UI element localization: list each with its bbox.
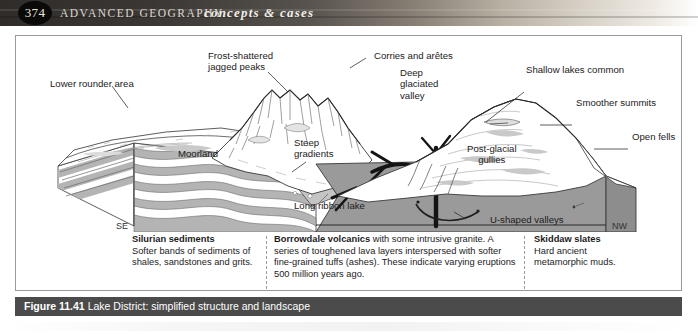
label-long-ribbon-lake: Long ribbon lake <box>294 200 365 211</box>
running-header-band: 374 ADVANCED GEOGRAPHY concepts & cases <box>0 0 698 26</box>
label-shallow-lakes-common: Shallow lakes common <box>526 64 624 75</box>
figure-caption-text: Figure 11.41 Lake District: simplified s… <box>24 297 310 316</box>
label-smoother-summits: Smoother summits <box>576 97 656 108</box>
caption-divider-right <box>524 236 525 289</box>
figure-frame: Lower rounder area Frost-shattered jagge… <box>15 35 682 291</box>
label-lower-rounder-area: Lower rounder area <box>50 78 134 89</box>
page-number: 374 <box>18 1 52 25</box>
page-bottom-scuff <box>0 322 698 331</box>
compass-label-se: SE <box>116 221 128 231</box>
label-steep-gradients: Steep gradients <box>294 137 333 160</box>
geology-title-silurian: Silurian sediments <box>132 234 215 244</box>
series-title: concepts & cases <box>204 0 314 26</box>
geology-title-skiddaw: Skiddaw slates <box>534 234 601 244</box>
label-post-glacial-gullies: Post-glacial gullies <box>467 143 517 166</box>
geology-column-skiddaw-slates: Skiddaw slates Hard ancient metamorphic … <box>534 234 630 269</box>
label-frost-shattered-jagged-peaks: Frost-shattered jagged peaks <box>208 50 273 73</box>
figure-caption-bar: Figure 11.41 Lake District: simplified s… <box>15 297 682 316</box>
geology-body-skiddaw: Hard ancient metamorphic muds. <box>534 246 616 268</box>
label-moorland: Moorland <box>178 148 218 159</box>
geology-title-borrowdale: Borrowdale volcanics <box>274 234 370 244</box>
label-deep-glaciated-valley: Deep glaciated valley <box>400 67 438 101</box>
geology-body-silurian: Softer bands of sediments of shales, san… <box>132 246 252 268</box>
geology-caption-columns: Silurian sediments Softer bands of sedim… <box>16 234 681 291</box>
label-corries-and-aretes: Corries and arêtes <box>374 50 453 61</box>
label-u-shaped-valleys: U-shaped valleys <box>490 214 564 225</box>
label-open-fells: Open fells <box>632 131 675 142</box>
caption-divider-left <box>266 236 267 289</box>
book-title: ADVANCED GEOGRAPHY <box>60 0 224 26</box>
geology-column-borrowdale-volcanics: Borrowdale volcanics with some intrusive… <box>274 234 516 280</box>
geology-column-silurian-sediments: Silurian sediments Softer bands of sedim… <box>132 234 254 269</box>
figure-caption-title: Lake District: simplified structure and … <box>88 300 310 312</box>
figure-number: Figure 11.41 <box>24 300 85 312</box>
compass-label-nw: NW <box>612 221 627 231</box>
